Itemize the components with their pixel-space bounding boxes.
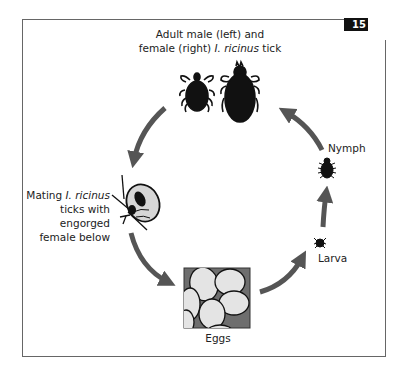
adults-caption: Adult male (left) and female (right) I. … [120,27,300,55]
nymph-tick-icon [318,158,336,178]
female-tick-icon [221,62,259,122]
adults-caption-end: tick [259,42,281,54]
adults-caption-text: female (right) [139,42,215,54]
mating-caption: Mating I. ricinus ticks with engorged fe… [20,188,110,244]
mating-caption-line2: ticks with [20,202,110,216]
mating-ticks-icon [112,175,166,230]
nymph-label: Nymph [328,141,366,155]
arrow-nymph-to-adults [286,112,322,150]
eggs-cluster-icon [178,264,250,337]
arrow-eggs-to-larva [260,258,302,292]
arrow-adults-to-mating [134,108,165,160]
larva-tick-icon [314,238,326,248]
mating-caption-text: Mating [26,189,65,201]
species-name: I. ricinus [66,189,110,201]
larva-label: Larva [318,251,347,265]
arrow-mating-to-eggs [131,233,168,282]
adults-caption-line2: female (right) I. ricinus tick [120,41,300,55]
species-name: I. ricinus [215,42,259,54]
adults-caption-line1: Adult male (left) and [120,27,300,41]
male-tick-icon [180,73,214,112]
mating-caption-line3: engorged [20,216,110,230]
arrow-larva-to-nymph [323,194,326,227]
eggs-label: Eggs [195,331,241,345]
mating-caption-line4: female below [20,230,110,244]
mating-caption-line1: Mating I. ricinus [20,188,110,202]
